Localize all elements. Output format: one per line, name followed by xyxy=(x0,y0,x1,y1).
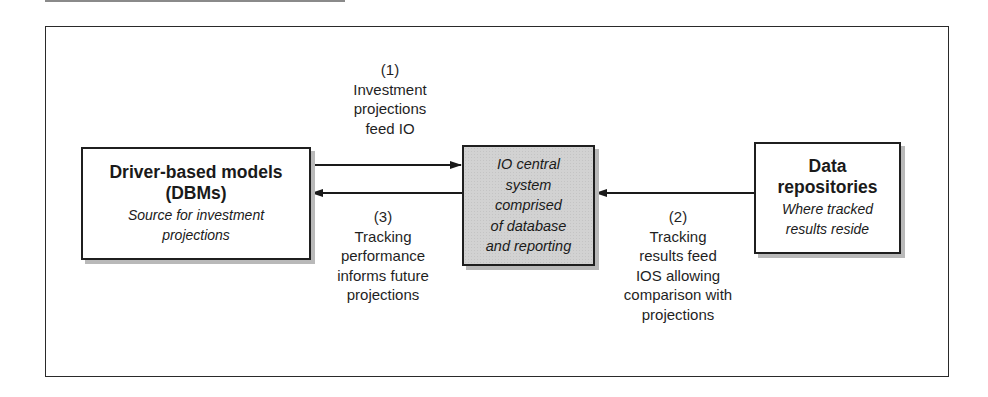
node-text: and reporting xyxy=(464,236,593,257)
edge-label-line: Tracking xyxy=(598,227,758,247)
edge-label-line: Tracking xyxy=(308,227,458,247)
edge-label-line: projections xyxy=(335,99,445,119)
node-text: system xyxy=(464,175,593,196)
edge-label-line: feed IO xyxy=(335,119,445,139)
edge-label-line: IOS allowing xyxy=(598,266,758,286)
node-title: repositories xyxy=(756,177,899,198)
edge-label-2: (2) Tracking results feed IOS allowing c… xyxy=(598,207,758,324)
node-text: comprised xyxy=(464,195,593,216)
node-text: IO central xyxy=(464,154,593,175)
edge-label-line: comparison with xyxy=(598,285,758,305)
edge-label-line: results feed xyxy=(598,246,758,266)
node-title: Driver-based models xyxy=(83,162,309,183)
node-data-repositories: Data repositories Where tracked results … xyxy=(754,142,901,254)
node-title: Data xyxy=(756,156,899,177)
node-subtitle: projections xyxy=(83,224,309,246)
edge-label-line: (1) xyxy=(335,60,445,80)
edge-label-3: (3) Tracking performance informs future … xyxy=(308,207,458,305)
edge-label-line: informs future xyxy=(308,266,458,286)
node-driver-based-models: Driver-based models (DBMs) Source for in… xyxy=(81,147,311,260)
node-subtitle: Source for investment xyxy=(83,204,309,226)
edge-label-line: Investment xyxy=(335,80,445,100)
edge-label-1: (1) Investment projections feed IO xyxy=(335,60,445,138)
edge-label-line: projections xyxy=(598,305,758,325)
edge-label-line: performance xyxy=(308,246,458,266)
edge-label-line: projections xyxy=(308,285,458,305)
node-subtitle: Where tracked xyxy=(756,198,899,220)
node-subtitle: results reside xyxy=(756,218,899,240)
edge-label-line: (3) xyxy=(308,207,458,227)
node-title: (DBMs) xyxy=(83,183,309,204)
node-text: of database xyxy=(464,216,593,237)
edge-label-line: (2) xyxy=(598,207,758,227)
node-io-central-system: IO central system comprised of database … xyxy=(462,145,595,266)
